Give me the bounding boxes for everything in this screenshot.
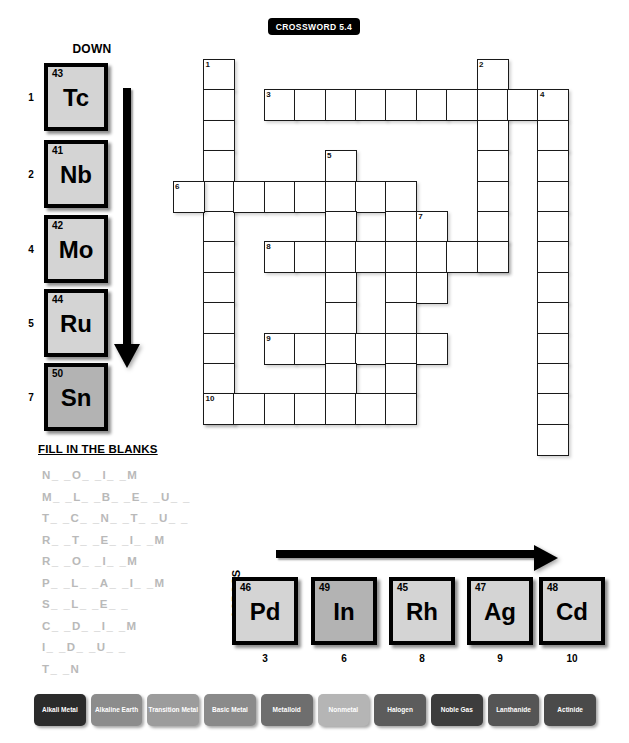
legend-item[interactable]: Noble Gas <box>431 694 483 726</box>
crossword-cell[interactable] <box>294 333 326 365</box>
crossword-cell[interactable] <box>537 181 569 213</box>
crossword-cell[interactable] <box>325 89 357 121</box>
crossword-cell[interactable] <box>325 211 357 243</box>
crossword-cell[interactable] <box>203 211 235 243</box>
crossword-cell[interactable] <box>385 211 417 243</box>
crossword-cell-numbered[interactable]: 5 <box>325 150 357 182</box>
crossword-cell[interactable] <box>325 241 357 273</box>
crossword-cell[interactable] <box>385 89 417 121</box>
crossword-cell[interactable] <box>477 120 509 152</box>
crossword-cell[interactable] <box>416 333 448 365</box>
crossword-cell[interactable] <box>385 241 417 273</box>
element-tile-ag[interactable]: 47Ag <box>467 577 533 645</box>
crossword-cell[interactable] <box>385 363 417 395</box>
crossword-cell[interactable] <box>325 181 357 213</box>
legend-item-label: Nonmetal <box>329 706 359 714</box>
element-atomic-number: 49 <box>319 582 330 593</box>
crossword-cell-numbered[interactable]: 6 <box>173 181 205 213</box>
crossword-cell[interactable] <box>294 393 326 425</box>
element-tile-rh[interactable]: 45Rh <box>389 577 455 645</box>
crossword-cell[interactable] <box>477 181 509 213</box>
crossword-cell[interactable] <box>355 181 387 213</box>
crossword-cell[interactable] <box>203 150 235 182</box>
crossword-cell-numbered[interactable]: 2 <box>477 59 509 91</box>
crossword-cell[interactable] <box>294 241 326 273</box>
legend-item[interactable]: Transition Metal <box>147 694 199 726</box>
crossword-cell[interactable] <box>537 211 569 243</box>
crossword-cell[interactable] <box>537 120 569 152</box>
crossword-cell-numbered[interactable]: 10 <box>203 393 235 425</box>
crossword-cell[interactable] <box>355 89 387 121</box>
crossword-cell[interactable] <box>507 89 539 121</box>
crossword-cell[interactable] <box>537 241 569 273</box>
crossword-cell[interactable] <box>385 302 417 334</box>
legend-item-label: Alkaline Earth <box>95 706 138 714</box>
crossword-cell[interactable] <box>294 89 326 121</box>
crossword-cell[interactable] <box>233 393 265 425</box>
crossword-cell[interactable] <box>203 333 235 365</box>
crossword-cell[interactable] <box>537 333 569 365</box>
crossword-cell[interactable] <box>416 272 448 304</box>
legend-item[interactable]: Halogen <box>374 694 426 726</box>
element-tile-cd[interactable]: 48Cd <box>539 577 605 645</box>
crossword-cell[interactable] <box>203 272 235 304</box>
crossword-cell[interactable] <box>264 181 296 213</box>
crossword-cell[interactable] <box>355 333 387 365</box>
legend-item[interactable]: Alkaline Earth <box>91 694 143 726</box>
element-category-legend: Alkali MetalAlkaline EarthTransition Met… <box>34 694 596 726</box>
crossword-cell[interactable] <box>385 272 417 304</box>
crossword-cell[interactable] <box>477 211 509 243</box>
crossword-cell[interactable] <box>203 89 235 121</box>
crossword-cell-numbered[interactable]: 7 <box>416 211 448 243</box>
crossword-cell[interactable] <box>325 393 357 425</box>
crossword-cell[interactable] <box>446 89 478 121</box>
crossword-cell[interactable] <box>477 89 509 121</box>
crossword-cell[interactable] <box>203 302 235 334</box>
crossword-cell[interactable] <box>537 424 569 456</box>
crossword-cell-number: 10 <box>206 394 215 404</box>
crossword-cell[interactable] <box>416 241 448 273</box>
crossword-cell[interactable] <box>537 302 569 334</box>
crossword-cell[interactable] <box>294 181 326 213</box>
crossword-cell[interactable] <box>203 241 235 273</box>
crossword-cell-numbered[interactable]: 9 <box>264 333 296 365</box>
element-tile-pd[interactable]: 46Pd <box>232 577 298 645</box>
across-clue-number: 9 <box>491 653 509 664</box>
crossword-cell[interactable] <box>233 181 265 213</box>
crossword-cell-numbered[interactable]: 3 <box>264 89 296 121</box>
crossword-cell-numbered[interactable]: 4 <box>537 89 569 121</box>
crossword-cell[interactable] <box>385 333 417 365</box>
across-clue-number: 3 <box>256 653 274 664</box>
crossword-cell[interactable] <box>203 181 235 213</box>
crossword-cell[interactable] <box>355 393 387 425</box>
crossword-cell[interactable] <box>416 89 448 121</box>
crossword-cell[interactable] <box>203 363 235 395</box>
legend-item[interactable]: Metalloid <box>261 694 313 726</box>
crossword-cell[interactable] <box>537 272 569 304</box>
legend-item[interactable]: Nonmetal <box>318 694 370 726</box>
crossword-cell-numbered[interactable]: 1 <box>203 59 235 91</box>
crossword-cell-numbered[interactable]: 8 <box>264 241 296 273</box>
crossword-cell[interactable] <box>203 120 235 152</box>
crossword-cell[interactable] <box>537 363 569 395</box>
legend-item[interactable]: Lanthanide <box>488 694 540 726</box>
crossword-cell[interactable] <box>446 241 478 273</box>
legend-item[interactable]: Alkali Metal <box>34 694 86 726</box>
crossword-cell[interactable] <box>355 241 387 273</box>
legend-item[interactable]: Actinide <box>544 694 596 726</box>
element-symbol: In <box>315 600 373 624</box>
legend-item[interactable]: Basic Metal <box>204 694 256 726</box>
crossword-cell[interactable] <box>477 150 509 182</box>
crossword-cell[interactable] <box>537 150 569 182</box>
crossword-cell[interactable] <box>325 302 357 334</box>
crossword-cell[interactable] <box>537 393 569 425</box>
crossword-cell[interactable] <box>325 272 357 304</box>
element-tile-in[interactable]: 49In <box>311 577 377 645</box>
crossword-cell[interactable] <box>264 393 296 425</box>
crossword-cell[interactable] <box>385 393 417 425</box>
crossword-cell[interactable] <box>477 241 509 273</box>
element-atomic-number: 47 <box>475 582 486 593</box>
crossword-cell[interactable] <box>385 181 417 213</box>
crossword-cell[interactable] <box>325 363 357 395</box>
crossword-cell[interactable] <box>325 333 357 365</box>
